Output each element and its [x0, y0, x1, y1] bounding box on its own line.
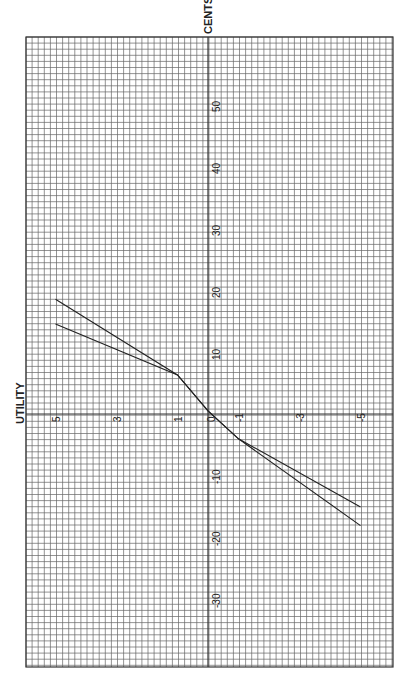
utility-tick-label: 0 [206, 416, 217, 422]
cents-tick-label: -20 [211, 531, 222, 546]
cents-tick-label: -10 [211, 469, 222, 484]
utility-tick-label: 3 [112, 416, 123, 422]
cents-tick-label: 30 [211, 224, 222, 236]
utility-axis-title: UTILITY [14, 382, 26, 424]
cents-axis-title: CENTS [202, 0, 214, 34]
cents-tick-label: -30 [211, 593, 222, 608]
utility-tick-label: 5 [51, 416, 62, 422]
cents-tick-label: 40 [211, 162, 222, 174]
utility-chart: 5310-1-3-55040302010-10-20-30 CENTS UTIL… [0, 0, 404, 697]
utility-tick-label: -3 [295, 413, 306, 422]
utility-tick-label: -1 [234, 413, 245, 422]
grid [26, 37, 393, 667]
utility-tick-label: 1 [173, 416, 184, 422]
cents-tick-label: 50 [211, 100, 222, 112]
cents-tick-label: 10 [211, 348, 222, 360]
cents-tick-label: 20 [211, 286, 222, 298]
utility-tick-label: -5 [356, 413, 367, 422]
